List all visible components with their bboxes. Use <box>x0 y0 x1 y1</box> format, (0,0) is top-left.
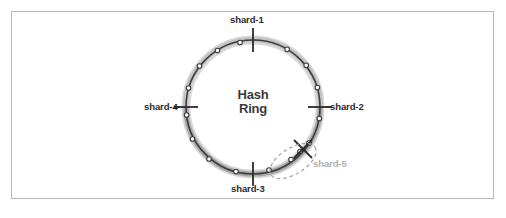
ring-node <box>234 169 239 174</box>
ring-node <box>315 85 320 90</box>
ring-node <box>267 168 272 173</box>
shard-5-label: shard-5 <box>313 158 347 169</box>
ring-title-line-1: Hash <box>213 88 293 102</box>
ring-node <box>207 157 212 162</box>
ring-node <box>317 116 322 121</box>
shard-2-label: shard-2 <box>330 101 364 112</box>
shard-4-label: shard-4 <box>144 101 178 112</box>
ring-node <box>186 86 191 91</box>
ring-node <box>197 64 202 69</box>
ring-node <box>285 47 290 52</box>
ring-node <box>190 137 195 142</box>
ring-center-title: Hash Ring <box>213 88 293 116</box>
ring-node <box>238 40 243 45</box>
ring-node <box>215 48 220 53</box>
ring-node <box>184 113 189 118</box>
ring-title-line-2: Ring <box>213 102 293 116</box>
ring-node <box>289 157 294 162</box>
shard-1-label: shard-1 <box>230 14 264 25</box>
shard-3-label: shard-3 <box>231 183 265 194</box>
ring-node <box>304 63 309 68</box>
hash-ring-figure: shard-1 shard-2 shard-3 shard-4 shard-5 … <box>0 0 506 218</box>
